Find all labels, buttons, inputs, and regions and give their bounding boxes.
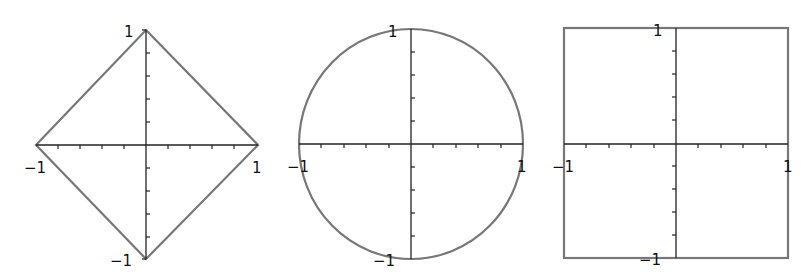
y-label-bottom: −1 [639, 251, 661, 269]
circle-plot: 1 −1 −1 1 [287, 23, 527, 270]
square-plot: 1 −1 −1 1 [552, 22, 793, 269]
y-label-top: 1 [388, 23, 398, 41]
y-label-top: 1 [124, 23, 134, 41]
x-label-right: 1 [517, 158, 527, 176]
y-label-top: 1 [653, 22, 663, 40]
x-label-left: −1 [552, 158, 574, 176]
y-label-bottom: −1 [110, 252, 132, 270]
x-label-right: 1 [252, 159, 262, 177]
unit-balls-figure: 1 −1 −1 1 1 −1 −1 [0, 0, 807, 279]
y-label-bottom: −1 [373, 252, 395, 270]
x-label-right: 1 [783, 158, 793, 176]
diamond-plot: 1 −1 −1 1 [24, 23, 262, 270]
x-label-left: −1 [287, 158, 309, 176]
x-label-left: −1 [24, 159, 46, 177]
